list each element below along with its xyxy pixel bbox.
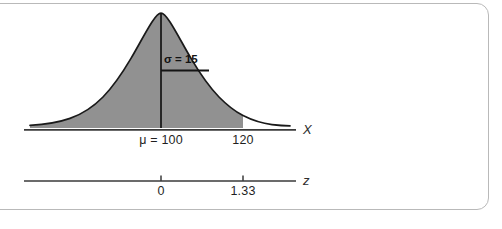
normal-distribution-figure: σ = 15 μ = 100 120 0 1.33 X z	[0, 0, 502, 229]
z-axis-label: z	[303, 173, 310, 188]
x-tick-label-120: 120	[232, 133, 253, 147]
x-axis-label: X	[303, 122, 312, 137]
x-tick-label-mean: μ = 100	[139, 133, 183, 147]
sigma-annotation-label: σ = 15	[164, 53, 198, 65]
z-tick-label-0: 0	[157, 184, 164, 198]
shaded-area-under-curve	[30, 13, 243, 128]
z-tick-label-1-33: 1.33	[230, 184, 255, 198]
